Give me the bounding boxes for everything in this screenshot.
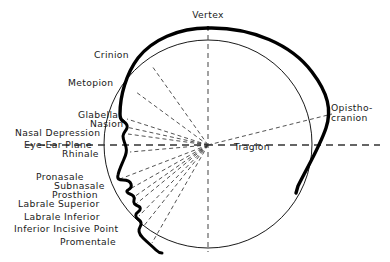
label-metopion: Metopion [68, 78, 113, 88]
label-labrale-inferior: Labrale Inferior [24, 212, 100, 222]
label-vertex: Vertex [186, 10, 230, 20]
label-opisthocranion-line2: cranion [331, 112, 368, 123]
ray-to-subnasale [130, 145, 208, 189]
skull-outline-frontal [120, 28, 208, 121]
ray-to-rhinale [130, 145, 208, 152]
label-labrale-superior: Labrale Superior [18, 199, 100, 209]
ray-to-promentale [152, 145, 208, 243]
ray-to-labrale-superior [136, 145, 208, 204]
ray-to-inferior-incisive-point [143, 145, 208, 227]
label-opisthocranion: Opistho- cranion [331, 103, 373, 122]
ray-to-crinion [152, 66, 208, 145]
head-landmark-diagram: Vertex Crinion Metopion Glabella Nasion … [0, 0, 390, 262]
label-promentale: Promentale [60, 237, 116, 247]
ray-to-labrale-inferior [139, 145, 208, 216]
landmark-ray-group [120, 66, 332, 243]
label-tragion: Tragion [234, 142, 270, 152]
label-rhinale: Rhinale [62, 149, 99, 159]
skull-outline-posterior [208, 28, 329, 193]
ray-to-glabella [127, 119, 208, 145]
label-nasal-depression: Nasal Depression [15, 128, 100, 138]
ray-to-prosthion [134, 145, 208, 197]
ray-to-opisthocranion [208, 114, 332, 145]
label-crinion: Crinion [94, 50, 129, 60]
label-inferior-incisive-point: Inferior Incisive Point [14, 224, 118, 234]
